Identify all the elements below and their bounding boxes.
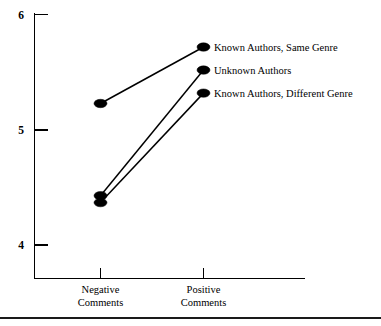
y-tick-label-6: 6	[18, 9, 24, 21]
series-marker-0-left	[94, 99, 107, 107]
series-marker-1-right	[197, 66, 210, 74]
series-label-known-authors-same-genre: Known Authors, Same Genre	[214, 42, 338, 53]
x-label-positive-line2: Comments	[181, 297, 227, 308]
series-labels-group: Known Authors, Same Genre Unknown Author…	[214, 42, 353, 99]
series-marker-2-right	[197, 89, 210, 97]
y-ticks-group	[35, 15, 48, 246]
x-label-positive-line1: Positive	[187, 284, 221, 295]
series-known-authors-different-genre	[94, 89, 210, 207]
series-label-known-authors-different-genre: Known Authors, Different Genre	[214, 88, 353, 99]
series-line-2	[101, 93, 204, 202]
series-line-0	[101, 47, 204, 103]
y-tick-label-4: 4	[18, 239, 24, 251]
y-tick-label-5: 5	[18, 124, 24, 136]
series-group	[94, 43, 210, 207]
series-known-authors-same-genre	[94, 43, 210, 108]
x-label-negative-line1: Negative	[82, 284, 120, 295]
series-marker-0-right	[197, 43, 210, 51]
series-line-1	[101, 70, 204, 196]
y-tick-labels-group: 6 5 4	[18, 9, 24, 251]
series-unknown-authors	[94, 66, 210, 200]
x-ticks-group	[101, 268, 204, 278]
x-label-negative-line2: Comments	[78, 297, 124, 308]
series-label-unknown-authors: Unknown Authors	[214, 65, 291, 76]
bottom-horizontal-rule	[0, 317, 381, 319]
figure-container: 6 5 4 Negative Comments Positive Comment…	[0, 0, 381, 326]
x-category-labels-group: Negative Comments Positive Comments	[78, 284, 227, 308]
interaction-plot-svg: 6 5 4 Negative Comments Positive Comment…	[0, 0, 381, 326]
series-marker-2-left	[94, 198, 107, 206]
